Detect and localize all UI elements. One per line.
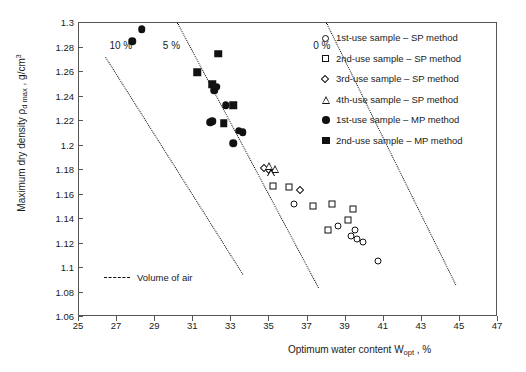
y-axis-title: Maximum dry density ρd max , g/cm3 — [15, 3, 29, 263]
y-axis-title-text: Maximum dry density — [16, 117, 27, 211]
dashed-line-icon — [104, 277, 130, 278]
circle-fill-marker — [129, 38, 137, 46]
data-point — [325, 227, 332, 234]
legend-marker — [322, 94, 336, 106]
x-tick-label: 45 — [454, 320, 465, 331]
legend-marker — [322, 73, 336, 85]
x-axis-title-subscript: opt — [404, 348, 414, 357]
legend-marker — [322, 135, 336, 147]
square-open-marker — [344, 217, 351, 224]
legend-label: 1st-use sample – SP method — [336, 32, 458, 44]
circle-open-marker — [291, 201, 298, 208]
x-axis-title: Optimum water content Wopt , % — [288, 344, 431, 357]
data-point — [207, 118, 215, 126]
data-point — [291, 201, 298, 208]
x-tick-label: 41 — [377, 320, 388, 331]
x-tick-mark — [421, 316, 422, 321]
x-axis-title-text: Optimum water content W — [288, 344, 404, 355]
y-tick-mark — [78, 96, 83, 97]
data-point — [335, 223, 342, 230]
y-axis-ticks: 1.061.081.11.121.141.161.181.21.221.241.… — [0, 0, 74, 372]
y-tick-label: 1.12 — [56, 237, 75, 248]
legend-label: 4th-use sample – SP method — [336, 94, 458, 106]
triangle-open-icon — [322, 96, 330, 104]
y-axis-title-unit-exponent: 3 — [15, 54, 22, 58]
circle-fill-icon — [322, 116, 330, 124]
y-tick-mark — [78, 120, 83, 121]
data-point — [222, 101, 230, 109]
legend: 1st-use sample – SP method2nd-use sample… — [322, 32, 518, 155]
x-tick-mark — [268, 316, 269, 321]
square-fill-icon — [322, 137, 330, 145]
legend-item[interactable]: 2nd-use sample – MP method — [322, 135, 518, 147]
data-point — [129, 38, 137, 46]
circle-fill-marker — [222, 101, 230, 109]
square-fill-marker — [193, 68, 201, 76]
x-tick-mark — [307, 316, 308, 321]
y-tick-label: 1.18 — [56, 164, 75, 175]
circle-fill-marker — [230, 139, 238, 147]
data-point — [359, 239, 366, 246]
y-tick-label: 1.22 — [56, 115, 75, 126]
triangle-open-marker — [267, 168, 275, 176]
legend-item[interactable]: 3rd-use sample – SP method — [322, 73, 518, 85]
y-tick-label: 1.2 — [61, 139, 74, 150]
square-open-marker — [350, 206, 357, 213]
x-tick-mark — [154, 316, 155, 321]
x-tick-mark — [497, 316, 498, 321]
data-point — [230, 101, 238, 109]
data-point — [310, 202, 317, 209]
square-open-marker — [310, 202, 317, 209]
y-tick-mark — [78, 145, 83, 146]
legend-item[interactable]: 1st-use sample – MP method — [322, 114, 518, 126]
y-tick-label: 1.1 — [61, 262, 74, 273]
y-tick-label: 1.26 — [56, 66, 75, 77]
volume-of-air-label: Volume of air — [137, 272, 192, 283]
data-point — [193, 68, 201, 76]
y-tick-mark — [78, 169, 83, 170]
y-tick-mark — [78, 47, 83, 48]
y-axis-title-unit: , g/cm — [16, 58, 27, 88]
chart-figure: 1.061.081.11.121.141.161.181.21.221.241.… — [0, 0, 526, 372]
air-void-line — [177, 23, 319, 288]
legend-item[interactable]: 1st-use sample – SP method — [322, 32, 518, 44]
x-tick-label: 29 — [149, 320, 160, 331]
x-tick-label: 37 — [301, 320, 312, 331]
y-tick-mark — [78, 292, 83, 293]
diamond-open-icon — [321, 75, 329, 83]
y-tick-label: 1.16 — [56, 188, 75, 199]
data-point — [230, 139, 238, 147]
data-point — [138, 25, 146, 33]
data-point — [329, 201, 336, 208]
circle-fill-marker — [138, 25, 146, 33]
circle-open-icon — [322, 35, 329, 42]
data-point — [270, 182, 277, 189]
x-tick-label: 25 — [73, 320, 84, 331]
legend-marker — [322, 53, 336, 65]
x-tick-mark — [459, 316, 460, 321]
y-axis-title-rho: ρ — [16, 109, 27, 115]
square-open-icon — [322, 55, 329, 62]
y-tick-mark — [78, 267, 83, 268]
x-tick-mark — [345, 316, 346, 321]
legend-item[interactable]: 4th-use sample – SP method — [322, 94, 518, 106]
y-tick-mark — [78, 194, 83, 195]
x-axis-title-tail: , % — [414, 344, 431, 355]
square-fill-marker — [220, 120, 228, 128]
y-axis-title-rho-subscript: d max — [20, 88, 29, 108]
legend-label: 1st-use sample – MP method — [336, 114, 459, 126]
square-open-marker — [325, 227, 332, 234]
legend-label: 2nd-use sample – SP method — [336, 53, 461, 65]
square-open-marker — [270, 182, 277, 189]
square-fill-marker — [209, 81, 217, 89]
circle-open-marker — [359, 239, 366, 246]
x-tick-label: 35 — [263, 320, 274, 331]
data-point — [297, 187, 303, 193]
x-tick-label: 43 — [416, 320, 427, 331]
legend-marker — [322, 32, 336, 44]
y-tick-label: 1.24 — [56, 90, 75, 101]
legend-item[interactable]: 2nd-use sample – SP method — [322, 53, 518, 65]
diamond-open-marker — [296, 185, 304, 193]
data-point — [267, 168, 275, 176]
x-tick-label: 31 — [187, 320, 198, 331]
